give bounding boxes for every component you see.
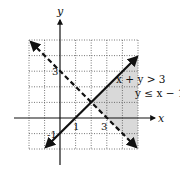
y-axis-label: y: [56, 5, 64, 18]
tick-label-neg1: -1: [47, 129, 57, 140]
inequality-2: y ≤ x − 1: [134, 87, 180, 99]
graph-canvas: y x 3 1 3 -1 x + y > 3 y ≤ x − 1: [0, 0, 180, 173]
x-axis-label: x: [158, 112, 165, 125]
tick-label-x3: 3: [101, 121, 107, 132]
tick-label-x1: 1: [73, 121, 79, 132]
tick-label-y3: 3: [52, 66, 58, 77]
inequality-1: x + y > 3: [116, 73, 165, 85]
